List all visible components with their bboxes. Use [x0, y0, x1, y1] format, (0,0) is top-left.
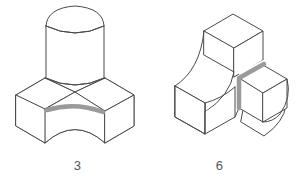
fillet-left-silhouette [175, 31, 204, 86]
figure-sheet: 3 [0, 0, 302, 186]
figure-right [151, 0, 302, 156]
lower-left-side-face [175, 86, 205, 134]
concave-fillet-face [175, 55, 204, 86]
figure-left [0, 0, 151, 156]
cylinder-body [46, 26, 104, 85]
cylinder-rounded-top [46, 6, 104, 33]
figure-left-caption: 3 [2, 158, 153, 173]
figure-right-caption: 6 [144, 158, 295, 173]
